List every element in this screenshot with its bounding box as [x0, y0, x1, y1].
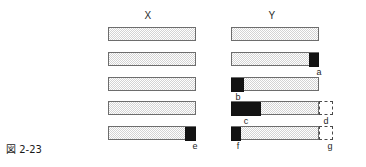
bar-x-row1 — [108, 27, 196, 41]
bar-x-row5 — [108, 126, 196, 140]
bar-x-row4 — [108, 101, 196, 115]
segment-label-d: d — [316, 117, 336, 126]
bar-row — [0, 52, 366, 66]
segment-label-g: g — [320, 142, 340, 151]
segment-dashed-g — [319, 126, 333, 140]
bar-y-row3 — [231, 77, 319, 91]
segment-black-c — [231, 102, 261, 116]
segment-black-f — [231, 127, 241, 141]
bar-y-row1 — [231, 27, 319, 41]
bar-row — [0, 77, 366, 91]
segment-dashed-d — [319, 101, 333, 115]
bar-y-row5 — [231, 126, 319, 140]
segment-label-f: f — [228, 142, 248, 151]
column-header-y: Y — [252, 11, 292, 21]
segment-black-e — [185, 127, 196, 141]
segment-label-c: c — [236, 117, 256, 126]
column-header-x: X — [128, 11, 168, 21]
bar-row — [0, 101, 366, 115]
segment-black-a — [309, 53, 319, 67]
figure-caption: 図 2-23 — [6, 144, 42, 156]
bar-x-row3 — [108, 77, 196, 91]
segment-label-a: a — [309, 68, 329, 77]
bar-row — [0, 126, 366, 140]
segment-label-e: e — [185, 142, 205, 151]
bar-y-row2 — [231, 52, 319, 66]
bar-x-row2 — [108, 52, 196, 66]
bar-row — [0, 27, 366, 41]
figure-container: X Y a b c d e f — [0, 0, 366, 167]
segment-black-b — [231, 78, 244, 92]
bar-y-row4 — [231, 101, 319, 115]
